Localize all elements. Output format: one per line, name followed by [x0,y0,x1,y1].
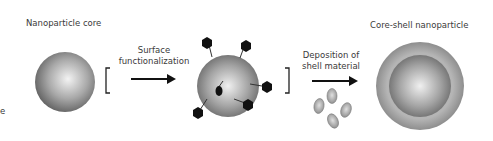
label-line: functionalization [113,56,195,67]
arrow-2 [312,76,358,86]
label-core-shell-nanoparticle: Core-shell nanoparticle [370,20,468,31]
arrow-1 [131,74,176,84]
right-bracket [285,68,289,93]
label-surface-functionalization: Surface functionalization [113,45,195,67]
core-shell-particle [376,42,464,130]
left-bracket [106,68,110,93]
core-sphere [35,52,95,112]
functionalized-particle [193,37,272,119]
label-nanoparticle-core: Nanoparticle core [26,18,101,29]
shell-material-particles [313,89,353,130]
label-line: shell material [296,61,366,72]
label-line: Surface [113,45,195,56]
cropped-text-fragment: e [0,106,5,117]
label-deposition-of-shell: Deposition of shell material [296,50,366,72]
label-line: Deposition of [296,50,366,61]
